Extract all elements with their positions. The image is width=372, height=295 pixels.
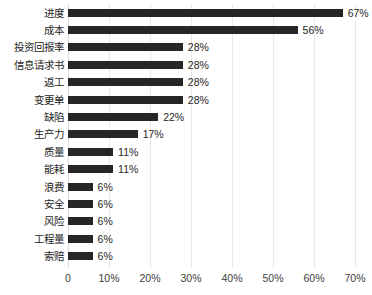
bar [68,200,93,208]
category-label: 风险 [0,215,64,227]
bar-row: 工程量6% [0,230,372,247]
bar-row: 进度67% [0,4,372,21]
x-tick-label: 0 [65,272,71,284]
category-label: 浪费 [0,181,64,193]
bar-group: 28% [68,56,209,73]
bar-value-label: 28% [188,94,209,106]
category-label: 工程量 [0,233,64,245]
category-label: 安全 [0,198,64,210]
bar-group: 22% [68,108,184,125]
x-tick-label: 40% [221,272,242,284]
category-label: 投资回报率 [0,41,64,53]
bar-group: 56% [68,21,324,38]
bar-row: 投资回报率28% [0,39,372,56]
bar-value-label: 6% [98,181,113,193]
bar-row: 生产力17% [0,126,372,143]
bar [68,43,183,51]
bar-value-label: 22% [163,111,184,123]
bar [68,183,93,191]
bar-value-label: 67% [348,7,369,19]
bar [68,165,113,173]
category-label: 变更单 [0,94,64,106]
bar-value-label: 56% [303,24,324,36]
category-label: 生产力 [0,128,64,140]
bar-row: 信息请求书28% [0,56,372,73]
category-label: 能耗 [0,163,64,175]
x-tick-label: 60% [303,272,324,284]
bar-row: 安全6% [0,195,372,212]
bar-value-label: 11% [118,146,138,158]
x-axis: 010%20%30%40%50%60%70% [0,268,372,288]
x-tick-label: 30% [180,272,201,284]
bar-row: 浪费6% [0,178,372,195]
category-label: 返工 [0,76,64,88]
bar [68,78,183,86]
bar-row: 索赔6% [0,247,372,264]
bar-value-label: 6% [98,233,113,245]
bar-group: 6% [68,247,113,264]
bar-value-label: 11% [118,163,138,175]
bar-group: 11% [68,161,138,178]
bar [68,217,93,225]
category-label: 质量 [0,146,64,158]
bar-rows: 进度67%成本56%投资回报率28%信息请求书28%返工28%变更单28%缺陷2… [0,4,372,265]
x-tick-label: 10% [98,272,119,284]
bar-group: 28% [68,39,209,56]
bar-group: 28% [68,91,209,108]
bar [68,96,183,104]
x-tick-label: 70% [344,272,365,284]
bar-row: 返工28% [0,74,372,91]
bar-row: 能耗11% [0,161,372,178]
category-label: 索赔 [0,250,64,262]
bar [68,113,158,121]
category-label: 缺陷 [0,111,64,123]
bar-group: 67% [68,4,369,21]
bar [68,61,183,69]
bar-value-label: 28% [188,76,209,88]
bar-value-label: 6% [98,250,113,262]
bar [68,26,298,34]
bar-group: 6% [68,178,113,195]
bar-group: 11% [68,143,138,160]
bar-value-label: 17% [143,128,164,140]
bar-value-label: 28% [188,41,209,53]
category-label: 成本 [0,24,64,36]
bar-group: 6% [68,230,113,247]
bar [68,252,93,260]
bar [68,130,138,138]
category-label: 进度 [0,7,64,19]
category-label: 信息请求书 [0,59,64,71]
bar [68,148,113,156]
bar-value-label: 6% [98,198,113,210]
bar-row: 风险6% [0,213,372,230]
bar [68,235,93,243]
bar-group: 17% [68,126,164,143]
bar-row: 质量11% [0,143,372,160]
bar-group: 6% [68,213,113,230]
bar-value-label: 6% [98,215,113,227]
x-tick-label: 20% [139,272,160,284]
bar-row: 成本56% [0,21,372,38]
horizontal-bar-chart: 进度67%成本56%投资回报率28%信息请求书28%返工28%变更单28%缺陷2… [0,0,372,295]
x-tick-label: 50% [262,272,283,284]
bar-group: 6% [68,195,113,212]
bar-row: 缺陷22% [0,108,372,125]
bar-value-label: 28% [188,59,209,71]
bar [68,9,343,17]
bar-row: 变更单28% [0,91,372,108]
bar-group: 28% [68,74,209,91]
